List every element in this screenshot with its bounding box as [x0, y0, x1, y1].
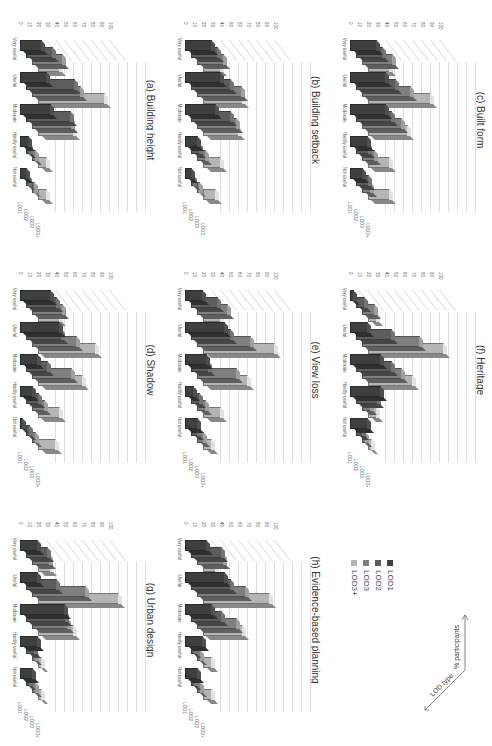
- z-tick-label: LOD1: [182, 202, 187, 214]
- x-tick-label: Useful: [12, 566, 16, 596]
- z-tick-label: LOD2: [23, 709, 28, 721]
- y-tick-label: 100: [108, 522, 113, 732]
- legend-item-lod3plus: LOD3+: [350, 560, 359, 596]
- y-tick-label: 0: [18, 272, 23, 482]
- plot-area: 0102030405060708090100Very usefulUsefulM…: [10, 22, 138, 232]
- x-tick-label: Not useful: [12, 162, 16, 192]
- y-tick-label: 70: [246, 22, 251, 232]
- chart-title: (d) Shadow: [145, 250, 156, 490]
- y-tick-label: 0: [183, 272, 188, 482]
- y-tick-label: 0: [18, 22, 23, 232]
- x-tick-label: Not useful: [342, 162, 346, 192]
- x-tick-label: Hardly useful: [12, 380, 16, 410]
- legend-panel: LOD1 LOD2 LOD3 LOD3+ % participants LOD …: [330, 500, 490, 740]
- z-tick-label: LOD1: [182, 702, 187, 714]
- bar-lod1: [20, 604, 65, 615]
- chart-title: (f) Heritage: [475, 250, 486, 490]
- bar-lod1: [20, 668, 34, 679]
- z-tick-label: LOD2: [188, 709, 193, 721]
- gridline: [118, 62, 119, 212]
- x-tick-label: Hardly useful: [342, 130, 346, 160]
- z-tick-label: LOD2: [188, 209, 193, 221]
- gridline: [136, 562, 137, 712]
- x-tick-label: Very useful: [177, 34, 181, 64]
- x-tick-label: Not useful: [12, 662, 16, 692]
- bar-lod1: [20, 168, 27, 179]
- z-tick-label: LOD1: [17, 702, 22, 714]
- x-tick-label: Hardly useful: [177, 630, 181, 660]
- x-tick-label: Very useful: [342, 284, 346, 314]
- bar-lod1: [185, 290, 203, 301]
- gridline: [145, 562, 146, 712]
- bar-lod1: [185, 668, 199, 679]
- z-tick-label: LOD3+: [200, 723, 205, 737]
- z-tick-label: LOD1: [182, 452, 187, 464]
- bar-lod1: [185, 636, 203, 647]
- gridline: [118, 562, 119, 712]
- chart-g: (g) Urban design0102030405060708090100Ve…: [0, 500, 160, 740]
- y-tick-label: 0: [348, 22, 353, 232]
- y-tick-label: 100: [438, 272, 443, 482]
- bar-lod1: [185, 572, 226, 583]
- y-tick-label: 80: [420, 272, 425, 482]
- x-tick-label: Hardly useful: [342, 380, 346, 410]
- bar-lod1: [185, 386, 194, 397]
- swatch-icon: [352, 560, 358, 566]
- chart-title: (a) Building height: [145, 0, 156, 240]
- z-tick-label: LOD3+: [35, 473, 40, 487]
- z-tick-label: LOD3+: [35, 223, 40, 237]
- y-tick-label: 80: [90, 272, 95, 482]
- z-tick-label: LOD3+: [365, 223, 370, 237]
- bar-lod1: [20, 322, 61, 333]
- y-tick-label: 90: [429, 22, 434, 232]
- bar-lod1: [350, 72, 386, 83]
- y-tick-label: 80: [255, 522, 260, 732]
- z-tick-label: LOD3: [194, 716, 199, 728]
- y-tick-label: 90: [99, 22, 104, 232]
- bar-lod1: [20, 636, 38, 647]
- y-tick-label: 100: [108, 272, 113, 482]
- bar-lod1: [20, 72, 47, 83]
- bar-lod1: [20, 354, 38, 365]
- x-tick-label: Moderate: [342, 98, 346, 128]
- gridline: [283, 312, 284, 462]
- bar-lod1: [20, 418, 23, 429]
- bar-lod1: [350, 354, 382, 365]
- gridline: [127, 62, 128, 212]
- x-tick-label: Very useful: [12, 284, 16, 314]
- y-tick-label: 90: [99, 272, 104, 482]
- bar-lod1: [350, 168, 364, 179]
- z-tick-label: LOD1: [17, 202, 22, 214]
- legend-item-lod2: LOD2: [374, 560, 383, 596]
- z-tick-label: LOD2: [353, 209, 358, 221]
- gridline: [127, 562, 128, 712]
- bar-lod1: [185, 418, 199, 429]
- chart-title: (c) Built form: [475, 0, 486, 240]
- bar-lod1: [185, 168, 192, 179]
- x-tick-label: Useful: [177, 66, 181, 96]
- x-tick-label: Not useful: [342, 412, 346, 442]
- z-tick-label: LOD3: [29, 716, 34, 728]
- y-tick-label: 100: [273, 22, 278, 232]
- bar-lod1: [185, 104, 217, 115]
- gridline: [475, 62, 476, 212]
- x-tick-label: Useful: [342, 316, 346, 346]
- y-tick-label: 0: [183, 22, 188, 232]
- y-tick-label: 0: [183, 522, 188, 732]
- gridline: [292, 562, 293, 712]
- z-tick-label: LOD3+: [365, 473, 370, 487]
- z-tick-label: LOD2: [353, 459, 358, 471]
- gridline: [310, 562, 311, 712]
- chart-title: (h) Evidence-based planning: [310, 500, 321, 740]
- y-tick-label: 90: [429, 272, 434, 482]
- bar-lod1: [350, 322, 368, 333]
- bar-lod1: [20, 136, 29, 147]
- gridline: [283, 62, 284, 212]
- bar-lod1: [20, 40, 43, 51]
- y-tick-label: 70: [81, 522, 86, 732]
- z-tick-label: LOD1: [17, 452, 22, 464]
- gridline: [292, 62, 293, 212]
- x-tick-label: Very useful: [177, 534, 181, 564]
- swatch-icon: [364, 560, 370, 566]
- chart-f: (f) Heritage0102030405060708090100Very u…: [330, 250, 490, 490]
